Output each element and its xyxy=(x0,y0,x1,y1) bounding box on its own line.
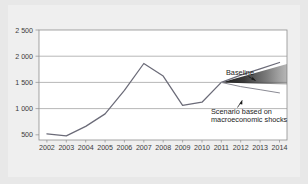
x-tick-label-2005: 2005 xyxy=(97,144,113,152)
y-tick-label-1500: 1 500 xyxy=(15,79,33,87)
x-tick-label-2007: 2007 xyxy=(136,144,152,152)
x-tick-label-2011: 2011 xyxy=(214,144,229,152)
annotation-scenario-line2: macroeconomic shocks xyxy=(211,115,288,124)
x-tick-label-2013: 2013 xyxy=(252,144,268,152)
y-tick-label-500: 500 xyxy=(21,131,33,139)
x-axis-labels: 2002 2003 2004 2005 2006 2007 2008 2009 … xyxy=(39,144,287,152)
x-tick-label-2002: 2002 xyxy=(39,144,55,152)
y-tick-label-2000: 2 000 xyxy=(15,53,33,61)
x-tick-label-2006: 2006 xyxy=(117,144,133,152)
x-tick-label-2010: 2010 xyxy=(194,144,210,152)
x-tick-label-2009: 2009 xyxy=(175,144,191,152)
y-tick-label-1000: 1 000 xyxy=(15,105,33,113)
y-axis-labels: 2 500 2 000 1 500 1 000 500 xyxy=(15,27,33,140)
y-tick-label-2500: 2 500 xyxy=(15,27,33,35)
y-tick-marks xyxy=(36,30,40,135)
figure-card: 2 500 2 000 1 500 1 000 500 2002 2003 xyxy=(8,5,300,177)
line-chart: 2 500 2 000 1 500 1 000 500 2002 2003 xyxy=(8,5,300,177)
x-tick-label-2012: 2012 xyxy=(233,144,249,152)
x-tick-label-2003: 2003 xyxy=(58,144,74,152)
annotation-baseline: Baseline xyxy=(226,68,254,77)
x-tick-label-2008: 2008 xyxy=(155,144,171,152)
x-tick-label-2004: 2004 xyxy=(78,144,94,152)
x-tick-label-2014: 2014 xyxy=(272,144,288,152)
plot-area xyxy=(39,30,287,140)
